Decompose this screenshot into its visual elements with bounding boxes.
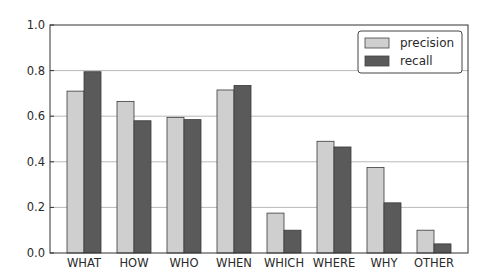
legend-label-recall: recall <box>400 54 433 68</box>
bar-recall <box>434 244 451 253</box>
y-tick-label: 0.6 <box>27 109 45 123</box>
bar-group-when <box>217 85 251 253</box>
bar-precision <box>417 230 434 253</box>
bar-precision <box>117 101 134 253</box>
y-tick-label: 0.8 <box>27 64 45 78</box>
gridlines <box>50 71 468 208</box>
x-tick-label: WHEN <box>216 256 252 270</box>
bar-group-why <box>367 168 401 254</box>
bar-group-who <box>167 117 201 253</box>
bar-precision <box>67 91 84 253</box>
bar-recall <box>234 85 251 253</box>
bar-group-how <box>117 101 151 253</box>
bar-recall <box>184 120 201 253</box>
bar-recall <box>384 203 401 253</box>
x-tick-label: WHY <box>370 256 398 270</box>
bar-recall <box>284 230 301 253</box>
legend-swatch-recall <box>365 56 389 66</box>
x-tick-label: WHAT <box>67 256 102 270</box>
bar-recall <box>334 147 351 253</box>
bar-recall <box>134 121 151 253</box>
bar-precision <box>167 117 184 253</box>
bar-group-other <box>417 230 451 253</box>
bar-groups <box>67 72 451 253</box>
bar-group-where <box>317 141 351 253</box>
bar-precision <box>267 213 284 253</box>
x-tick-label: HOW <box>119 256 148 270</box>
x-tick-label: WHO <box>169 256 198 270</box>
x-axis: WHATHOWWHOWHENWHICHWHEREWHYOTHER <box>67 256 454 270</box>
legend: precision recall <box>358 31 462 73</box>
y-tick-label: 1.0 <box>27 18 45 32</box>
legend-swatch-precision <box>365 38 389 48</box>
x-tick-label: WHICH <box>264 256 304 270</box>
bar-group-which <box>267 213 301 253</box>
x-tick-label: WHERE <box>313 256 356 270</box>
y-tick-label: 0.2 <box>27 200 45 214</box>
bar-precision <box>367 168 384 254</box>
bar-precision <box>217 90 234 253</box>
bar-group-what <box>67 72 101 253</box>
y-tick-label: 0.0 <box>27 246 45 260</box>
legend-label-precision: precision <box>400 36 454 50</box>
y-tick-label: 0.4 <box>27 155 45 169</box>
bar-chart: 0.00.20.40.60.81.0 WHATHOWWHOWHENWHICHWH… <box>0 0 488 280</box>
x-tick-label: OTHER <box>414 256 454 270</box>
bar-precision <box>317 141 334 253</box>
bar-recall <box>84 72 101 253</box>
